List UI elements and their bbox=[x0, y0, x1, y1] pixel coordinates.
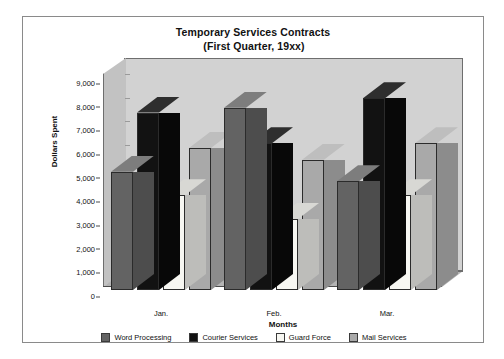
y-axis-tick-label: 0 bbox=[55, 292, 95, 301]
bar-side-face bbox=[411, 195, 432, 290]
bar-front-face bbox=[111, 172, 133, 290]
y-axis-tick-mark bbox=[96, 178, 100, 179]
x-axis-tick-label: Mar. bbox=[352, 309, 422, 318]
bar-column bbox=[224, 108, 246, 290]
y-axis-tick-label: 2,000 bbox=[55, 244, 95, 253]
y-axis-tick-label: 6,000 bbox=[55, 150, 95, 159]
plot-wall-tick bbox=[125, 145, 130, 146]
y-axis-tick-mark bbox=[96, 130, 100, 131]
bar-side-face bbox=[159, 113, 180, 291]
plot-wall-tick bbox=[125, 74, 130, 75]
bar-front-face bbox=[337, 181, 359, 290]
y-axis-tick-mark bbox=[96, 154, 100, 155]
y-axis-tick-mark bbox=[96, 296, 100, 297]
x-axis-tick-label: Jan. bbox=[126, 309, 196, 318]
y-axis-tick-label: 9,000 bbox=[55, 79, 95, 88]
legend-swatch bbox=[101, 333, 110, 342]
bar-side-face bbox=[272, 143, 293, 290]
y-axis-tick-label: 3,000 bbox=[55, 221, 95, 230]
y-axis-tick-label: 7,000 bbox=[55, 126, 95, 135]
chart-subtitle: (First Quarter, 19xx) bbox=[23, 39, 483, 53]
legend-label: Word Processing bbox=[114, 333, 171, 342]
bar-side-face bbox=[246, 108, 267, 290]
bar-side-face bbox=[185, 195, 206, 290]
y-axis-tick-mark bbox=[96, 201, 100, 202]
legend-item: Mail Services bbox=[349, 333, 407, 342]
y-axis-tick-mark bbox=[96, 225, 100, 226]
chart-title: Temporary Services Contracts bbox=[23, 25, 483, 39]
bar-side-face bbox=[437, 143, 458, 290]
plot-left-wall-edge bbox=[103, 74, 104, 286]
bar-front-face bbox=[224, 108, 246, 290]
bar-side-face bbox=[359, 181, 380, 290]
y-axis-tick-label: 5,000 bbox=[55, 173, 95, 182]
legend-swatch bbox=[349, 333, 358, 342]
x-axis-tick-label: Feb. bbox=[239, 309, 309, 318]
y-axis-tick-label: 1,000 bbox=[55, 268, 95, 277]
legend-item: Courier Services bbox=[189, 333, 257, 342]
legend-swatch bbox=[276, 333, 285, 342]
plot-wall-tick bbox=[125, 98, 130, 99]
y-axis-tick-mark bbox=[96, 272, 100, 273]
plot-wall-tick bbox=[125, 121, 130, 122]
y-axis-tick-mark bbox=[96, 249, 100, 250]
chart-title-block: Temporary Services Contracts (First Quar… bbox=[23, 25, 483, 53]
legend-label: Mail Services bbox=[362, 333, 407, 342]
x-axis-label: Months bbox=[103, 320, 463, 329]
bar-side-face bbox=[385, 98, 406, 290]
legend-item: Word Processing bbox=[101, 333, 171, 342]
bar-column bbox=[337, 181, 359, 290]
bar-column bbox=[111, 172, 133, 290]
bar-side-face bbox=[133, 172, 154, 290]
chart-legend: Word ProcessingCourier ServicesGuard For… bbox=[23, 333, 485, 342]
y-axis-ticks: 9,0008,0007,0006,0005,0004,0003,0002,000… bbox=[55, 67, 95, 289]
plot-area bbox=[103, 58, 463, 306]
legend-item: Guard Force bbox=[276, 333, 331, 342]
legend-swatch bbox=[189, 333, 198, 342]
y-axis-tick-mark bbox=[96, 83, 100, 84]
legend-label: Courier Services bbox=[202, 333, 257, 342]
y-axis-tick-mark bbox=[96, 107, 100, 108]
legend-label: Guard Force bbox=[289, 333, 331, 342]
chart-frame: Temporary Services Contracts (First Quar… bbox=[22, 16, 484, 343]
y-axis-tick-label: 8,000 bbox=[55, 102, 95, 111]
y-axis-tick-label: 4,000 bbox=[55, 197, 95, 206]
